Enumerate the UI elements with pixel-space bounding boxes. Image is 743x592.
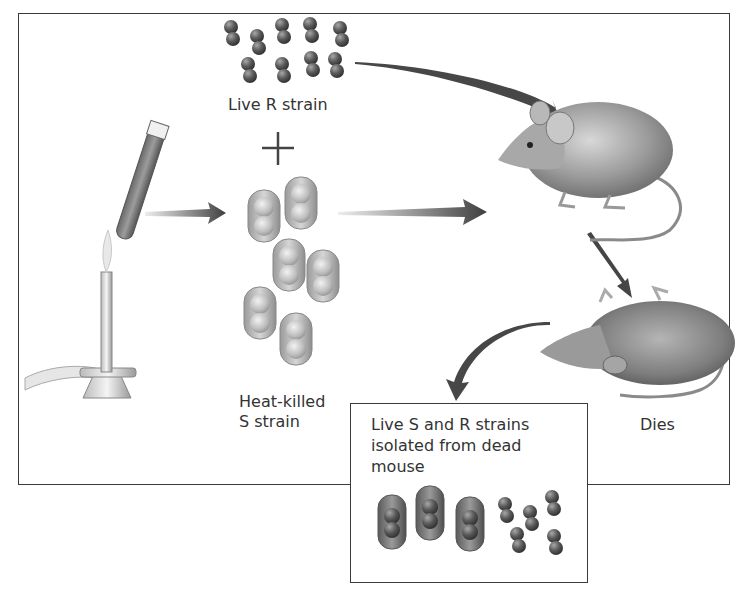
live-r-strain-cluster — [224, 17, 349, 83]
arrow-mouse-to-dead-mouse — [587, 232, 632, 298]
arrow-s-strain-to-mouse — [338, 199, 487, 225]
arrow-dead-mouse-to-result — [446, 322, 550, 401]
bunsen-burner-icon — [25, 230, 136, 398]
heat-killed-s-strain-cluster — [244, 177, 339, 365]
result-cells — [350, 403, 588, 583]
dead-mouse-illustration — [540, 288, 735, 397]
heat-killed-label-line1: Heat-killed — [239, 392, 325, 412]
dies-label: Dies — [640, 415, 675, 435]
live-mouse-illustration — [498, 101, 680, 240]
test-tube-icon — [114, 120, 169, 241]
result-box: Live S and R strains isolated from dead … — [350, 403, 588, 583]
plus-sign-icon — [262, 132, 294, 165]
live-r-strain-label: Live R strain — [228, 95, 328, 115]
arrow-burner-to-s-strain — [145, 202, 226, 224]
result-r-strain-cells — [498, 490, 563, 555]
result-s-strain-cells — [378, 486, 484, 551]
heat-killed-label-line2: S strain — [239, 412, 300, 432]
